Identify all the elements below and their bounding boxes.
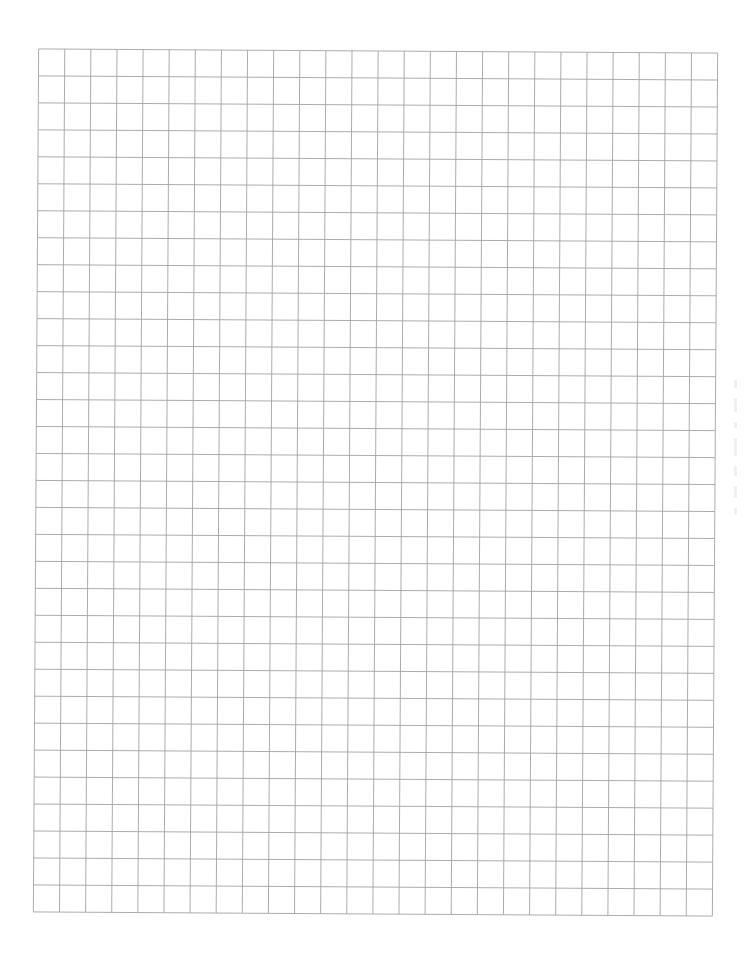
grid-lines [33,49,717,916]
grid [33,49,717,916]
graph-paper-page [0,0,746,957]
bleed-through-marks [728,370,742,520]
